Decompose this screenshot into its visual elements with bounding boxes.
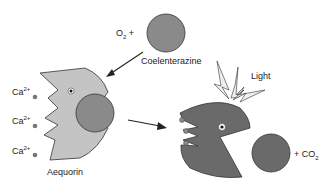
- light-bolt-icon: [214, 61, 265, 102]
- bound-calcium-3: [184, 141, 189, 146]
- aequorin-reaction-diagram: O2 + Coelenterazine Light Ca2+ Ca2+ Ca2+…: [0, 0, 334, 190]
- calcium-label-3: Ca2+: [12, 145, 30, 156]
- bound-calcium-2: [184, 129, 189, 134]
- co2-label: + CO2: [294, 150, 319, 161]
- calcium-ion-3: [33, 153, 38, 158]
- arrow-head-icon: [106, 69, 115, 77]
- calcium-ion-2: [33, 124, 38, 129]
- coelenterazine-label: Coelenterazine: [141, 57, 202, 66]
- coelenterazine-circle: [147, 14, 185, 52]
- aequorin-label: Aequorin: [47, 168, 83, 177]
- arrow-head-icon: [157, 122, 167, 130]
- calcium-ion-1: [33, 95, 38, 100]
- calcium-label-1: Ca2+: [12, 86, 30, 97]
- bound-calcium-1: [180, 118, 185, 123]
- product-circle: [252, 134, 290, 172]
- light-label: Light: [251, 72, 271, 81]
- calcium-label-2: Ca2+: [12, 115, 30, 126]
- oxygen-label: O2 +: [116, 29, 134, 40]
- diagram-graphics: [0, 0, 334, 190]
- aequorin-active-shape: [180, 103, 250, 178]
- coelenterazine-bound-circle: [76, 94, 114, 132]
